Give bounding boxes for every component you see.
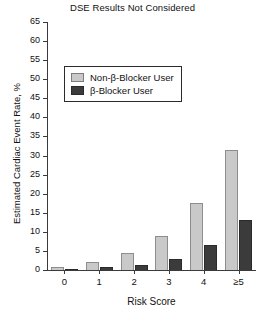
y-axis-tick [43,41,47,42]
bar-non-beta-blocker [86,262,99,270]
y-axis-tick-label: 30 [11,150,40,160]
y-axis-tick [43,117,47,118]
y-axis-tick [43,232,47,233]
y-axis-tick-label: 55 [11,54,40,64]
bar-non-beta-blocker [51,267,64,270]
x-axis-tick-label: 1 [83,276,115,287]
y-axis-tick [43,251,47,252]
y-axis-tick [43,60,47,61]
bar-non-beta-blocker [155,236,168,270]
y-axis-tick-label: 50 [11,73,40,83]
bar-non-beta-blocker [225,150,238,270]
bar-beta-blocker [239,220,252,270]
bar-beta-blocker [65,269,78,270]
x-axis-tick [134,270,135,274]
x-axis-title: Risk Score [47,296,256,307]
bar-beta-blocker [204,245,217,270]
legend-label-non-beta-blocker: Non-β-Blocker User [90,72,174,83]
y-axis-tick-label: 15 [11,207,40,217]
bar-non-beta-blocker [121,253,134,270]
y-axis-tick [43,175,47,176]
y-axis-tick [43,213,47,214]
y-axis-tick [43,79,47,80]
y-axis-tick-label: 10 [11,226,40,236]
y-axis-tick [43,98,47,99]
y-axis-tick-label: 25 [11,169,40,179]
y-axis-tick [43,136,47,137]
y-axis-tick-label: 45 [11,92,40,102]
y-axis-tick [43,156,47,157]
x-axis-tick [204,270,205,274]
x-axis-tick-label: 3 [153,276,185,287]
x-axis-tick-label: ≥5 [223,276,255,287]
legend-item-non-beta-blocker: Non-β-Blocker User [71,71,174,84]
x-axis-line [47,270,256,271]
y-axis-tick-label: 20 [11,188,40,198]
legend: Non-β-Blocker User β-Blocker User [64,66,182,102]
y-axis-tick-label: 40 [11,111,40,121]
legend-item-beta-blocker: β-Blocker User [71,84,174,97]
x-axis-tick-label: 0 [48,276,80,287]
y-axis-tick [43,270,47,271]
x-axis-tick [169,270,170,274]
x-axis-tick-label: 4 [188,276,220,287]
y-axis-tick-label: 60 [11,35,40,45]
legend-label-beta-blocker: β-Blocker User [90,85,153,96]
bar-chart: DSE Results Not Considered Estimated Car… [0,0,265,323]
y-axis-tick [43,194,47,195]
bar-beta-blocker [169,259,182,270]
y-axis-tick-label: 65 [11,16,40,26]
y-axis-title: Estimated Cardiac Event Rate, % [0,0,16,323]
legend-swatch-non-beta-blocker [71,73,84,82]
chart-title: DSE Results Not Considered [0,2,265,13]
bar-beta-blocker [135,265,148,270]
y-axis-tick [43,22,47,23]
x-axis-tick [239,270,240,274]
y-axis-tick-label: 35 [11,130,40,140]
bar-beta-blocker [100,267,113,270]
bar-non-beta-blocker [190,203,203,270]
y-axis-tick-label: 0 [11,264,40,274]
x-axis-tick [64,270,65,274]
y-axis-tick-label: 5 [11,245,40,255]
legend-swatch-beta-blocker [71,86,84,95]
x-axis-tick-label: 2 [118,276,150,287]
x-axis-tick [99,270,100,274]
